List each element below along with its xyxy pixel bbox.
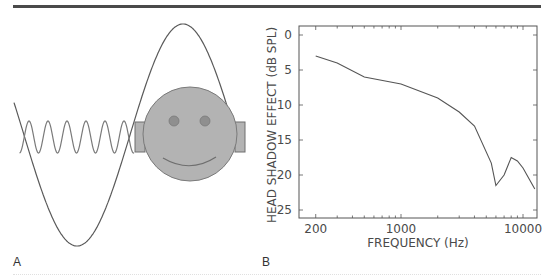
y-tick-label: 10 [277,98,292,112]
right-eye [200,116,210,126]
x-tick-label: 10000 [504,222,542,236]
plot-frame [299,26,537,218]
high-frequency-wave [20,121,135,153]
head-shadow-curve [316,56,535,189]
panel-b-label: B [262,255,270,269]
x-tick-label: 1000 [386,222,417,236]
y-tick-label: 0 [284,28,292,42]
x-axis-ticks: 200100010000 [304,26,542,236]
x-axis-title: FREQUENCY (Hz) [367,236,469,250]
caption-cutoff [13,274,541,280]
head-shadow-chart: 200100010000 0510152025 FREQUENCY (Hz) H… [265,26,542,250]
y-tick-label: 5 [284,63,292,77]
panel-a-label: A [13,255,21,269]
y-tick-label: 15 [277,133,292,147]
y-axis-title: HEAD SHADOW EFFECT (dB SPL) [265,27,279,223]
head-face [143,87,237,181]
y-tick-label: 25 [277,203,292,217]
y-tick-label: 20 [277,168,292,182]
x-tick-label: 200 [304,222,327,236]
panel-a-illustration [14,24,245,246]
figure-canvas: 200100010000 0510152025 FREQUENCY (Hz) H… [0,0,555,280]
left-eye [169,116,179,126]
